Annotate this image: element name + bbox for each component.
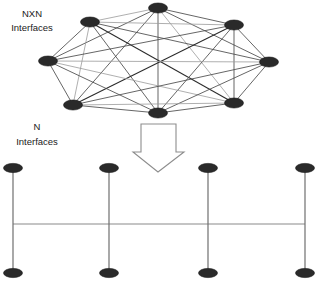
mesh-edge <box>90 22 269 62</box>
mesh-node <box>225 20 244 30</box>
mesh-edge <box>48 8 158 61</box>
mesh-label-line1: NXN <box>22 8 42 19</box>
bus-label-line1: N <box>34 121 41 132</box>
mesh-edge <box>48 25 234 61</box>
mesh-node <box>149 108 168 118</box>
bus-label-line2: Interfaces <box>16 136 58 147</box>
mesh-edge <box>48 61 234 103</box>
bus-node-bottom <box>296 268 315 277</box>
bus-node-top <box>4 163 23 172</box>
mesh-edge <box>48 61 269 62</box>
mesh-node <box>149 3 168 13</box>
mesh-node <box>81 17 100 27</box>
diagram-canvas: NXN Interfaces N Interfaces <box>0 0 319 286</box>
bus-group <box>4 163 315 277</box>
bus-node-bottom <box>199 268 218 277</box>
bus-node-bottom <box>4 268 23 277</box>
mesh-edge <box>90 22 234 25</box>
bus-node-bottom <box>100 268 119 277</box>
down-arrow-icon <box>133 124 184 172</box>
down-arrow-shape <box>133 124 184 172</box>
network-topology-diagram: NXN Interfaces N Interfaces <box>0 0 319 286</box>
mesh-edge <box>234 25 269 62</box>
mesh-node <box>225 98 244 108</box>
mesh-edge <box>73 22 90 105</box>
mesh-edge <box>48 22 90 61</box>
mesh-edge <box>48 61 73 105</box>
bus-node-top <box>296 163 315 172</box>
mesh-node <box>39 56 58 66</box>
mesh-edge <box>73 105 158 113</box>
bus-node-top <box>100 163 119 172</box>
mesh-edge <box>158 25 234 113</box>
bus-node-top <box>199 163 218 172</box>
mesh-node <box>64 100 83 110</box>
mesh-label-line2: Interfaces <box>11 22 53 33</box>
mesh-edge <box>73 103 234 105</box>
mesh-node <box>260 57 279 67</box>
